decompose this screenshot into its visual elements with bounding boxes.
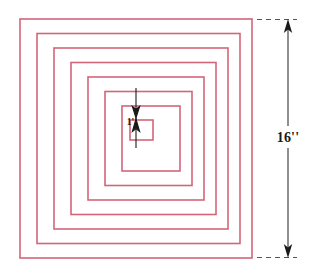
- diagram-canvas: 1'' 16'': [0, 0, 317, 275]
- figure-background: [0, 0, 317, 275]
- gap-dimension-label: 1'': [127, 117, 138, 127]
- overall-dimension-label: 16'': [277, 130, 300, 145]
- concentric-squares-figure: 1'' 16'': [0, 0, 317, 275]
